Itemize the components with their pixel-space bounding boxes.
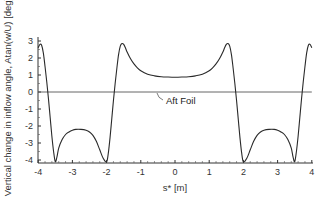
y-axis-label: Vertical change in inflow angle, Atan(w/… [2,0,13,196]
x-tick-label: -3 [68,167,76,177]
y-tick-label: -3 [25,138,33,148]
y-ticks: 3210-1-2-3-4 [25,36,41,165]
x-axis-label: s* [m] [163,182,187,193]
x-tick-label: 0 [172,167,177,177]
x-tick-label: 4 [309,167,314,177]
x-tick-label: -1 [137,167,145,177]
y-tick-label: 2 [28,53,33,63]
y-tick-label: 3 [28,36,33,46]
x-tick-label: -4 [34,167,42,177]
inflow-angle-chart: Vertical change in inflow angle, Atan(w/… [0,0,322,199]
x-tick-label: 1 [207,167,212,177]
annotation-leader-line [157,93,163,100]
y-tick-label: -1 [25,104,33,114]
x-tick-label: 2 [241,167,246,177]
x-tick-label: -2 [103,167,111,177]
y-tick-label: -4 [25,155,33,165]
y-tick-label: 0 [28,87,33,97]
aft-foil-label: Aft Foil [166,95,196,106]
y-tick-label: -2 [25,121,33,131]
x-tick-label: 3 [275,167,280,177]
y-tick-label: 1 [28,70,33,80]
y-axis-label-text: Vertical change in inflow angle, Atan(w/… [2,0,13,196]
